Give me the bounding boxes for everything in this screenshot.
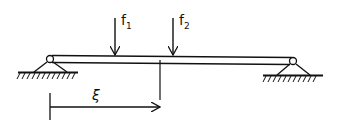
load-f2-label: f2 [179,12,190,31]
load-f1-label: f1 [121,12,132,31]
load-f2: f2 [173,12,190,55]
ground-hatch-left [17,73,75,79]
beam-diagram: f1 f2 ξ [0,0,339,130]
left-pin-support [17,56,78,80]
xi-dimension [50,93,160,120]
beam [52,56,292,65]
load-f1: f1 [115,12,132,55]
right-pin-support [263,58,323,83]
xi-label: ξ [91,87,100,103]
ground-hatch-right [263,76,316,82]
